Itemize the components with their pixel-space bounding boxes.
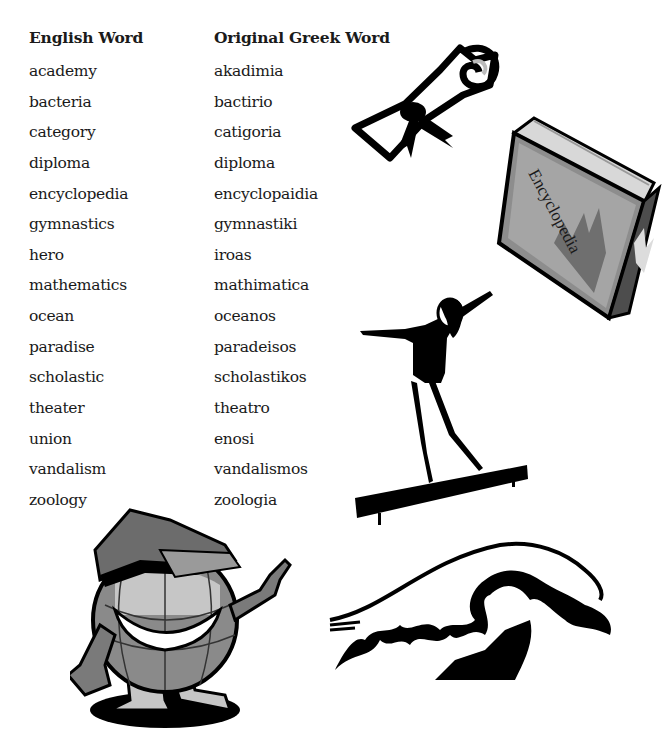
english-word: diploma <box>29 148 209 179</box>
english-word-header: English Word <box>29 26 209 50</box>
english-word-list: academy bacteria category diploma encycl… <box>29 56 209 516</box>
globe-mascot-pointing-icon <box>70 505 295 735</box>
english-word: theater <box>29 393 209 424</box>
greek-word: encyclopaidia <box>214 179 414 210</box>
greek-word: iroas <box>214 240 414 271</box>
english-word: mathematics <box>29 270 209 301</box>
english-word-column: English Word academy bacteria category d… <box>29 26 209 516</box>
english-word: academy <box>29 56 209 87</box>
diploma-scroll-icon <box>345 40 505 165</box>
greek-word: gymnastiki <box>214 209 414 240</box>
english-word: gymnastics <box>29 209 209 240</box>
english-word: scholastic <box>29 362 209 393</box>
english-word: category <box>29 117 209 148</box>
english-word: bacteria <box>29 87 209 118</box>
english-word: ocean <box>29 301 209 332</box>
english-word: hero <box>29 240 209 271</box>
english-word: union <box>29 424 209 455</box>
gymnast-on-balance-beam-icon <box>345 283 530 528</box>
english-word: paradise <box>29 332 209 363</box>
ocean-wave-icon <box>325 540 630 685</box>
english-word: encyclopedia <box>29 179 209 210</box>
english-word: vandalism <box>29 454 209 485</box>
